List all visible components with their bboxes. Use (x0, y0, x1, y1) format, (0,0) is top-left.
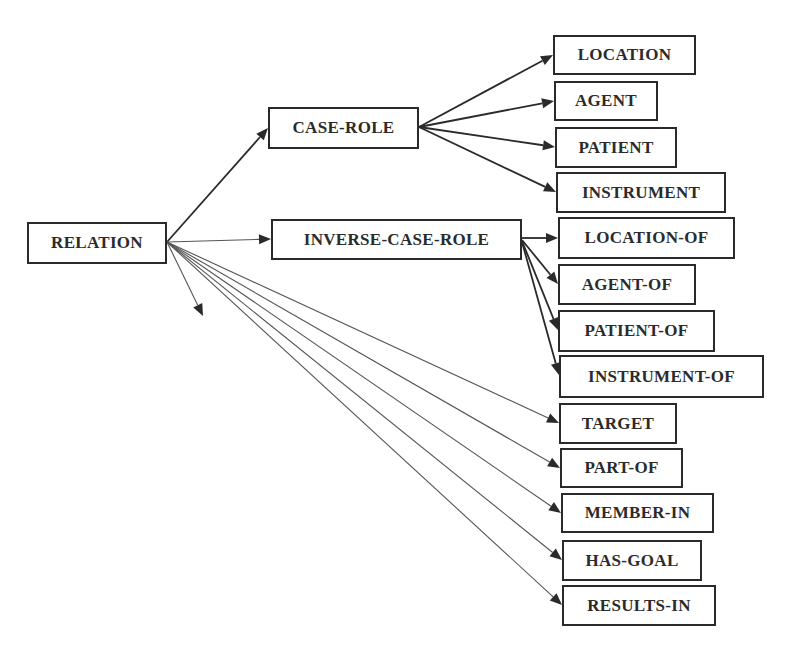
arrowhead-icon (549, 317, 558, 330)
edge-arrow (167, 234, 271, 244)
edge-arrow (522, 242, 561, 375)
arrowhead-icon (542, 140, 555, 150)
node-instrument-of: INSTRUMENT-OF (559, 355, 764, 398)
arrowhead-icon (548, 502, 561, 513)
node-location-of: LOCATION-OF (558, 217, 735, 259)
node-patient: PATIENT (555, 127, 677, 168)
arrowhead-icon (541, 98, 554, 108)
node-patient-of: PATIENT-OF (558, 310, 715, 352)
edge-arrow (167, 242, 562, 605)
edge-arrow (167, 242, 559, 423)
node-location: LOCATION (553, 35, 696, 75)
node-has-goal: HAS-GOAL (562, 540, 702, 581)
arrowhead-icon (550, 549, 562, 560)
edge-arrow (167, 242, 562, 560)
edge-arrow (522, 233, 558, 243)
node-part-of: PART-OF (560, 448, 683, 488)
arrowhead-icon (259, 234, 271, 244)
edge-arrow (167, 242, 561, 513)
edge-arrow (167, 242, 203, 316)
edge-arrow (167, 128, 268, 242)
node-results-in: RESULTS-IN (562, 585, 716, 626)
node-agent-of: AGENT-OF (558, 264, 696, 305)
node-target: TARGET (559, 403, 677, 444)
edge-arrow (419, 55, 553, 127)
edge-arrow (419, 98, 554, 127)
arrowhead-icon (547, 458, 560, 468)
node-member-in: MEMBER-IN (561, 493, 714, 533)
edge-arrow (522, 241, 558, 330)
edge-arrow (167, 242, 560, 468)
node-inverse-case-role: INVERSE-CASE-ROLE (271, 219, 522, 260)
edge-arrow (419, 127, 555, 150)
node-relation: RELATION (27, 222, 167, 264)
node-agent: AGENT (554, 81, 658, 121)
node-case-role: CASE-ROLE (268, 107, 419, 149)
arrowhead-icon (546, 233, 558, 243)
node-instrument: INSTRUMENT (556, 172, 726, 213)
